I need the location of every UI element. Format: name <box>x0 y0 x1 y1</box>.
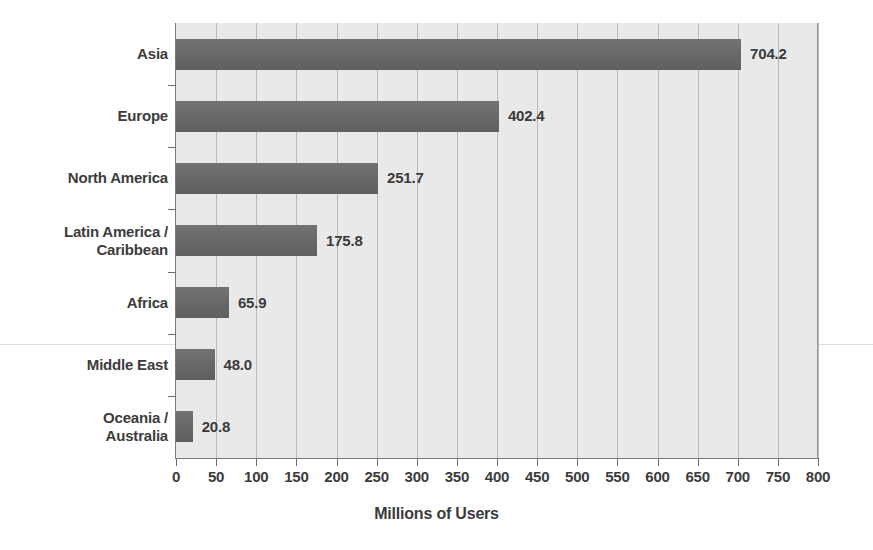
x-axis-tick <box>457 459 458 466</box>
x-axis-tick <box>698 459 699 466</box>
category-label: North America <box>68 169 168 187</box>
x-axis-tick <box>818 459 819 466</box>
x-axis-tick-label: 0 <box>172 468 180 485</box>
y-axis-tick <box>168 334 176 335</box>
bar <box>176 287 229 318</box>
bar <box>176 163 378 194</box>
x-axis-tick <box>337 459 338 466</box>
x-axis-tick-label: 800 <box>806 468 830 485</box>
x-axis-tick-label: 250 <box>364 468 388 485</box>
y-axis-tick <box>168 272 176 273</box>
category-label: Oceania / Australia <box>103 409 168 445</box>
category-label: Latin America / Caribbean <box>64 223 168 259</box>
x-axis-tick-label: 350 <box>445 468 469 485</box>
x-axis-tick-label: 500 <box>565 468 589 485</box>
x-axis-tick <box>738 459 739 466</box>
bar-value-label: 20.8 <box>202 418 230 435</box>
y-axis-tick <box>168 147 176 148</box>
gridline-vertical <box>818 23 819 458</box>
y-axis-tick <box>168 209 176 210</box>
bar-value-label: 402.4 <box>508 107 545 124</box>
category-label: Middle East <box>87 356 168 374</box>
bar-value-label: 704.2 <box>750 45 787 62</box>
x-axis-tick <box>658 459 659 466</box>
x-axis-tick-label: 150 <box>284 468 308 485</box>
gridline-vertical <box>778 23 779 458</box>
bar <box>176 411 193 442</box>
x-axis-tick-label: 750 <box>766 468 790 485</box>
x-axis-tick-label: 600 <box>645 468 669 485</box>
x-axis-tick <box>537 459 538 466</box>
x-axis-tick <box>176 459 177 466</box>
gridline-vertical <box>617 23 618 458</box>
gridline-vertical <box>417 23 418 458</box>
bar-value-label: 65.9 <box>238 294 266 311</box>
gridline-vertical <box>377 23 378 458</box>
x-axis-tick <box>497 459 498 466</box>
bar-value-label: 48.0 <box>224 356 252 373</box>
gridline-vertical <box>698 23 699 458</box>
x-axis-title: Millions of Users <box>0 505 873 523</box>
x-axis-tick-label: 550 <box>605 468 629 485</box>
gridline-vertical <box>457 23 458 458</box>
x-axis-tick <box>778 459 779 466</box>
gridline-vertical <box>658 23 659 458</box>
x-axis-tick <box>417 459 418 466</box>
x-axis-tick-label: 50 <box>208 468 224 485</box>
bar <box>176 39 741 70</box>
x-axis-tick-label: 400 <box>485 468 509 485</box>
bar-value-label: 251.7 <box>387 169 424 186</box>
category-label: Asia <box>137 45 168 63</box>
bar-chart-figure: AsiaEuropeNorth AmericaLatin America / C… <box>0 0 873 550</box>
category-label: Europe <box>118 107 168 125</box>
x-axis-tick-label: 700 <box>726 468 750 485</box>
gridline-vertical <box>497 23 498 458</box>
x-axis-tick-label: 200 <box>324 468 348 485</box>
x-axis-tick <box>256 459 257 466</box>
x-axis-tick-label: 650 <box>685 468 709 485</box>
y-axis-tick <box>168 396 176 397</box>
bar-value-label: 175.8 <box>326 232 363 249</box>
gridline-vertical <box>537 23 538 458</box>
x-axis-tick-label: 300 <box>405 468 429 485</box>
gridline-vertical <box>738 23 739 458</box>
category-label: Africa <box>127 294 168 312</box>
y-axis-tick <box>168 85 176 86</box>
x-axis-title-text: Millions of Users <box>374 505 499 523</box>
bar <box>176 225 317 256</box>
x-axis-tick-label: 100 <box>244 468 268 485</box>
gridline-vertical <box>577 23 578 458</box>
bar <box>176 349 215 380</box>
x-axis-tick <box>617 459 618 466</box>
bar <box>176 101 499 132</box>
x-axis-tick <box>296 459 297 466</box>
x-axis-tick <box>377 459 378 466</box>
x-axis-tick-label: 450 <box>525 468 549 485</box>
x-axis-tick <box>216 459 217 466</box>
x-axis-tick <box>577 459 578 466</box>
